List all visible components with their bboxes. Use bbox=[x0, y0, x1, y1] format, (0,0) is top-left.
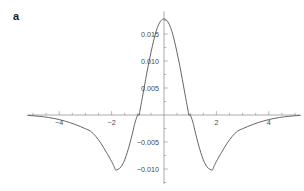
plot-area: −4−224 0.0150.0100.005−0.005−0.010 bbox=[0, 0, 304, 191]
figure-panel-a: a −4−224 0.0150.0100.005−0.005−0.010 bbox=[0, 0, 304, 191]
y-tick-label: −0.005 bbox=[137, 138, 159, 147]
x-tick-label: 2 bbox=[214, 118, 218, 127]
x-tick-label: −2 bbox=[107, 118, 115, 127]
y-axis-tick-labels: 0.0150.0100.005−0.005−0.010 bbox=[137, 30, 159, 174]
x-axis-tick-labels: −4−224 bbox=[55, 118, 271, 127]
y-tick-label: −0.010 bbox=[137, 165, 159, 174]
axes bbox=[28, 11, 300, 184]
